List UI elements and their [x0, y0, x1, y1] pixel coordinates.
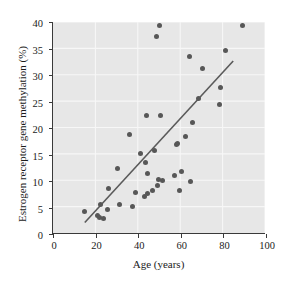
- data-point: [187, 54, 192, 59]
- data-point: [183, 134, 188, 139]
- data-point: [145, 171, 150, 176]
- x-tick-label: 80: [219, 240, 230, 251]
- x-tick-label: 60: [177, 240, 188, 251]
- x-tick: 20: [96, 234, 97, 238]
- y-tick: 25: [49, 102, 53, 103]
- y-tick: 5: [49, 208, 53, 209]
- y-tick: 30: [49, 75, 53, 76]
- data-point: [217, 102, 222, 107]
- x-tick-label: 40: [134, 240, 145, 251]
- y-tick-label: 5: [38, 203, 43, 214]
- data-point: [105, 207, 110, 212]
- data-point: [152, 148, 157, 153]
- data-point: [179, 169, 184, 174]
- y-tick: 40: [49, 22, 53, 23]
- data-point: [138, 151, 143, 156]
- y-tick: 20: [49, 128, 53, 129]
- data-point: [200, 66, 205, 71]
- x-tick: 80: [223, 234, 224, 238]
- data-point: [150, 188, 155, 193]
- x-tick: 60: [181, 234, 182, 238]
- data-point: [218, 85, 223, 90]
- y-tick-label: 40: [33, 18, 44, 29]
- y-axis-title: Estrogen receptor gene methylation (%): [16, 24, 28, 244]
- y-tick-label: 0: [38, 230, 43, 241]
- data-point: [133, 190, 138, 195]
- data-point: [196, 96, 201, 101]
- data-point: [117, 202, 122, 207]
- y-tick-label: 35: [33, 44, 44, 55]
- data-point: [106, 186, 111, 191]
- y-tick-label: 20: [33, 124, 44, 135]
- x-axis-title: Age (years): [52, 258, 265, 270]
- data-point: [127, 132, 132, 137]
- data-point: [175, 141, 180, 146]
- scatter-plot-figure: 0510152025303540 020406080100 Age (years…: [0, 0, 288, 287]
- x-tick: 40: [138, 234, 139, 238]
- y-tick: 35: [49, 49, 53, 50]
- x-tick-label: 0: [51, 240, 56, 251]
- data-point: [144, 113, 149, 118]
- data-point: [158, 113, 163, 118]
- y-tick-label: 15: [33, 150, 44, 161]
- x-tick-label: 20: [91, 240, 102, 251]
- x-tick: 0: [53, 234, 54, 238]
- data-point: [155, 183, 160, 188]
- data-point: [177, 188, 182, 193]
- data-point: [160, 178, 165, 183]
- x-tick: 100: [266, 234, 267, 238]
- data-point: [143, 160, 148, 165]
- data-point: [240, 23, 245, 28]
- plot-area: 0510152025303540 020406080100: [52, 22, 265, 234]
- data-point: [157, 23, 162, 28]
- y-tick-label: 30: [33, 71, 44, 82]
- data-point: [130, 204, 135, 209]
- y-tick-label: 25: [33, 97, 44, 108]
- data-point: [190, 120, 195, 125]
- data-point: [154, 34, 159, 39]
- data-point: [98, 202, 103, 207]
- x-tick-label: 100: [259, 240, 275, 251]
- y-tick: 15: [49, 155, 53, 156]
- y-tick-label: 10: [33, 177, 44, 188]
- data-point: [188, 179, 193, 184]
- data-point: [82, 209, 87, 214]
- data-points: [53, 22, 265, 233]
- data-point: [172, 173, 177, 178]
- data-point: [223, 48, 228, 53]
- data-point: [115, 166, 120, 171]
- data-point: [101, 216, 106, 221]
- y-tick: 10: [49, 181, 53, 182]
